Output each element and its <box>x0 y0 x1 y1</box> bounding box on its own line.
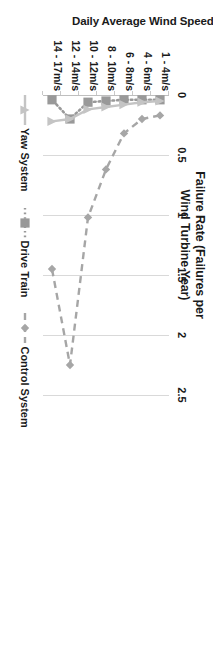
category-label: 8 - 10m/s <box>105 17 117 91</box>
diamond-marker <box>156 111 164 119</box>
chart-legend: Yaw SystemDrive TrainControl System <box>19 95 31 425</box>
legend-key-triangle-icon <box>19 95 31 125</box>
value-tick-label: 0.5 <box>176 135 188 175</box>
legend-item[interactable]: Control System <box>19 313 31 427</box>
legend-item[interactable]: Yaw System <box>19 95 31 192</box>
category-label: 4 - 6m/s <box>141 17 153 91</box>
category-label: 14 - 17m/s <box>51 17 63 91</box>
diamond-marker <box>102 165 110 173</box>
value-tick-label: 2 <box>176 315 188 355</box>
legend-label: Drive Train <box>19 241 31 298</box>
category-label: 12 - 14m/s <box>69 17 81 91</box>
series-line <box>52 115 160 365</box>
value-tick-label: 0 <box>176 75 188 115</box>
square-marker <box>20 218 29 227</box>
chart-rotator: Failure Rate (Failures per Wind Turbine … <box>0 0 213 668</box>
value-tick-label: 1.5 <box>176 255 188 295</box>
chart-figure: Failure Rate (Failures per Wind Turbine … <box>0 0 213 668</box>
triangle-marker <box>47 117 56 126</box>
square-marker <box>83 98 92 107</box>
value-axis-title-line1: Failure Rate (Failures per <box>192 95 207 395</box>
category-label: 1 - 4m/s <box>159 17 171 91</box>
diamond-marker <box>48 265 56 273</box>
series-control-system <box>48 111 164 369</box>
diamond-marker <box>84 213 92 221</box>
legend-label: Yaw System <box>19 128 31 192</box>
category-label: 10 - 12m/s <box>87 17 99 91</box>
legend-key-diamond-icon <box>19 313 31 343</box>
category-label: 6 - 8m/s <box>123 17 135 91</box>
diamond-marker <box>138 115 146 123</box>
square-marker <box>47 95 56 104</box>
diamond-marker <box>21 324 29 332</box>
legend-key-square-icon <box>19 208 31 238</box>
diamond-marker <box>66 361 74 369</box>
legend-label: Control System <box>19 346 31 427</box>
series-layer <box>43 95 169 395</box>
value-tick-label: 1 <box>176 195 188 235</box>
gridline <box>43 395 169 396</box>
value-tick-label: 2.5 <box>176 375 188 415</box>
plot-area: 00.511.522.5 1 - 4m/s4 - 6m/s6 - 8m/s8 -… <box>43 95 169 395</box>
legend-item[interactable]: Drive Train <box>19 208 31 298</box>
